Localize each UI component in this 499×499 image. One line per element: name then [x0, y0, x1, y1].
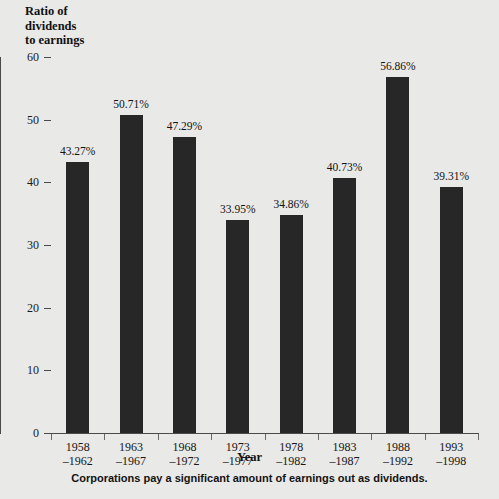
y-axis-tick-label: 40: [5, 175, 39, 190]
y-axis-tick: [44, 182, 51, 183]
bar: [226, 220, 249, 433]
y-axis-tick-label: 0: [5, 426, 39, 441]
bar: [386, 77, 409, 433]
bar: [120, 115, 143, 433]
bar: [333, 178, 356, 433]
y-axis-tick-label-wrap: 0: [0, 426, 39, 440]
y-axis-tick: [44, 433, 51, 434]
y-axis-tick-label: 10: [5, 363, 39, 378]
bar-value-label: 47.29%: [154, 120, 214, 132]
bar-value-label: 34.86%: [261, 198, 321, 210]
y-axis-tick: [44, 120, 51, 121]
bar: [280, 215, 303, 433]
figure-caption: Corporations pay a significant amount of…: [0, 472, 499, 484]
y-axis-tick-label: 50: [5, 113, 39, 128]
bar-value-label: 39.31%: [421, 170, 481, 182]
y-axis-title-line-1: Ratio of: [25, 4, 84, 19]
y-axis-tick-label-wrap: 50: [0, 113, 39, 127]
y-axis-tick-label-wrap: 40: [0, 175, 39, 189]
y-axis-tick: [44, 370, 51, 371]
y-axis-tick-label: 30: [5, 238, 39, 253]
plot-area: [51, 57, 478, 433]
bar: [173, 137, 196, 433]
y-axis-tick: [44, 245, 51, 246]
y-axis-tick-label-wrap: 60: [0, 50, 39, 64]
y-axis-tick-label-wrap: 30: [0, 238, 39, 252]
bar-value-label: 50.71%: [101, 98, 161, 110]
bar: [66, 162, 89, 433]
y-axis-title: Ratio of dividends to earnings: [25, 4, 84, 48]
y-axis-title-line-3: to earnings: [25, 33, 84, 48]
chart-figure: Ratio of dividends to earnings 010203040…: [0, 0, 499, 499]
bar-value-label: 43.27%: [48, 145, 108, 157]
y-axis-tick: [44, 308, 51, 309]
y-axis-tick: [44, 57, 51, 58]
bar: [440, 187, 463, 433]
y-axis-tick-label-wrap: 10: [0, 363, 39, 377]
y-axis-tick-label: 60: [5, 50, 39, 65]
y-axis-tick-label: 20: [5, 301, 39, 316]
bar-value-label: 33.95%: [208, 203, 268, 215]
y-axis-title-line-2: dividends: [25, 19, 84, 34]
bar-value-label: 40.73%: [315, 161, 375, 173]
x-axis-title: Year: [0, 450, 499, 465]
bar-value-label: 56.86%: [368, 60, 428, 72]
y-axis-tick-label-wrap: 20: [0, 301, 39, 315]
